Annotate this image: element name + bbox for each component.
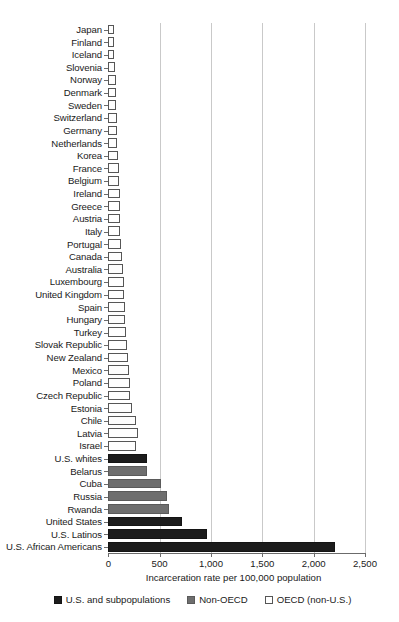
bar-row: United Kingdom [0,288,399,302]
category-label: Korea [0,149,102,163]
bar [108,88,115,98]
bar [108,50,114,60]
x-axis-tick-label: 500 [137,558,183,569]
bar-row: Rwanda [0,503,399,517]
x-axis-tick [365,553,366,557]
category-label: New Zealand [0,351,102,365]
category-label: Estonia [0,402,102,416]
x-axis-line [108,553,366,554]
bar-row: New Zealand [0,351,399,365]
category-label: Israel [0,439,102,453]
bar [108,529,207,539]
bar-row: Denmark [0,86,399,100]
x-axis-tick [160,553,161,557]
bar [108,100,116,110]
bar [108,252,121,262]
bar-row: Russia [0,490,399,504]
bar-row: Ireland [0,187,399,201]
bar [108,214,120,224]
bar-rows: JapanFinlandIcelandSloveniaNorwayDenmark… [0,23,399,553]
bar [108,391,130,401]
x-axis-tick-label: 1,000 [188,558,234,569]
category-label: Finland [0,36,102,50]
bar [108,315,125,325]
category-label: France [0,162,102,176]
bar [108,416,135,426]
category-label: U.S. Latinos [0,528,102,542]
bar-row: Hungary [0,313,399,327]
bar-row: Cuba [0,477,399,491]
bar [108,37,114,47]
bar [108,378,129,388]
bar-row: Italy [0,225,399,239]
category-label: Netherlands [0,137,102,151]
x-axis-tick [314,553,315,557]
bar-row: Belgium [0,174,399,188]
x-axis-tick [211,553,212,557]
bar [108,479,160,489]
bar [108,62,115,72]
category-label: Denmark [0,86,102,100]
category-label: Slovak Republic [0,338,102,352]
category-label: United States [0,515,102,529]
bar-row: United States [0,515,399,529]
category-label: Latvia [0,427,102,441]
category-label: Norway [0,73,102,87]
bar [108,290,124,300]
category-label: Turkey [0,326,102,340]
bar-row: France [0,162,399,176]
bar-row: Spain [0,301,399,315]
bar [108,340,127,350]
legend-swatch-us-icon [54,596,62,604]
bar-row: Poland [0,376,399,390]
bar [108,226,120,236]
legend-item-oecd: OECD (non-U.S.) [265,594,352,605]
bar [108,277,124,287]
category-label: Germany [0,124,102,138]
bar [108,126,117,136]
bar [108,25,113,35]
x-axis-tick-label: 2,000 [291,558,337,569]
bar-row: Sweden [0,99,399,113]
bar [108,75,115,85]
bar-row: Czech Republic [0,389,399,403]
legend-item-us-and-subpopulations: U.S. and subpopulations [54,594,171,605]
bar-row: Belarus [0,465,399,479]
category-label: Russia [0,490,102,504]
bar-row: Switzerland [0,111,399,125]
x-axis-tick [262,553,263,557]
bar [108,353,128,363]
bar-row: Portugal [0,238,399,252]
bar [108,138,117,148]
x-axis-tick-label: 2,500 [342,558,388,569]
category-label: U.S. whites [0,452,102,466]
category-label: Chile [0,414,102,428]
bar-row: Greece [0,200,399,214]
bar [108,466,147,476]
category-label: Czech Republic [0,389,102,403]
bar [108,327,125,337]
x-axis-tick [108,553,109,557]
category-label: Austria [0,212,102,226]
legend-swatch-oecd-icon [265,596,273,604]
category-label: Australia [0,263,102,277]
category-label: Rwanda [0,503,102,517]
bar [108,201,120,211]
bar-row: U.S. Latinos [0,528,399,542]
bar-row: Austria [0,212,399,226]
bar [108,163,118,173]
bar-row: Chile [0,414,399,428]
bar-row: Mexico [0,364,399,378]
x-axis-tick-label: 0 [85,558,131,569]
bar-row: Germany [0,124,399,138]
legend-item-non-oecd: Non-OECD [187,594,248,605]
legend-label-us: U.S. and subpopulations [66,594,171,605]
bar-row: Slovak Republic [0,338,399,352]
category-label: Greece [0,200,102,214]
category-label: Japan [0,23,102,37]
bar-row: Australia [0,263,399,277]
category-label: Cuba [0,477,102,491]
category-label: Canada [0,250,102,264]
category-label: Mexico [0,364,102,378]
bar [108,302,124,312]
